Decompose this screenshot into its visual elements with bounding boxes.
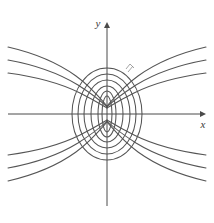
hyperbola-branch-lower-1 — [8, 122, 107, 181]
y-axis-arrowhead — [104, 22, 110, 28]
figure-container: y x — [0, 0, 214, 223]
x-axis-arrowhead — [200, 111, 206, 117]
axes-group — [8, 22, 206, 206]
x-axis-label: x — [200, 118, 206, 130]
right-angle-marker — [126, 64, 134, 72]
confocal-conics-figure: y x — [0, 0, 214, 223]
hyperbola-branch-upper-1 — [8, 47, 107, 106]
hyperbola-branch-lower-1-right — [107, 122, 206, 181]
y-axis-label: y — [95, 17, 101, 29]
right-angle-icon-inner — [128, 66, 133, 72]
hyperbola-branch-upper-1-right — [107, 47, 206, 106]
